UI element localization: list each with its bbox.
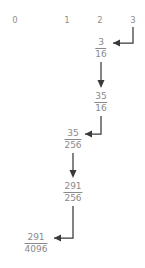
fraction-denominator: 256 <box>63 193 82 204</box>
arrow-from-n3-to-n4 <box>70 153 77 178</box>
fraction-numerator: 291 <box>25 233 48 244</box>
fraction-node-3-16: 3 16 <box>95 38 106 59</box>
arrow-from-n1-to-n2 <box>98 62 105 88</box>
fraction-numerator: 291 <box>63 182 82 193</box>
fraction-numerator: 3 <box>95 38 106 49</box>
fraction-denominator: 256 <box>64 140 81 151</box>
column-header-3: 3 <box>125 16 141 25</box>
arrow-from-n2-to-n3 <box>85 116 101 138</box>
fraction-node-35-16: 35 16 <box>94 92 107 113</box>
column-header-0: 0 <box>7 16 23 25</box>
arrow-from-col3-to-n1 <box>113 27 133 47</box>
fraction-numerator: 35 <box>64 129 81 140</box>
fraction-node-35-256: 35 256 <box>64 129 81 150</box>
fraction-node-291-4096: 291 4096 <box>25 233 48 254</box>
fraction-denominator: 16 <box>94 103 107 114</box>
column-header-1: 1 <box>59 16 75 25</box>
arrow-from-n4-to-n5 <box>54 206 73 242</box>
fraction-numerator: 35 <box>94 92 107 103</box>
diagram-canvas: 0 1 2 3 3 16 <box>0 0 145 268</box>
fraction-denominator: 4096 <box>25 244 48 255</box>
fraction-node-291-256: 291 256 <box>63 182 82 203</box>
column-header-2: 2 <box>92 16 108 25</box>
fraction-denominator: 16 <box>95 49 106 60</box>
